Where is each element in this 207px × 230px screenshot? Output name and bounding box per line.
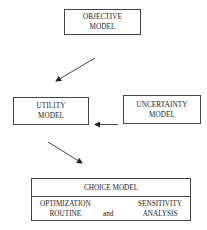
label-line: SENSITIVITY: [138, 200, 182, 208]
label-line: ANALYSIS: [143, 210, 178, 218]
uncertainty-model-node: UNCERTAINTY MODEL: [123, 95, 201, 124]
choice-model-title: CHOICE MODEL: [32, 179, 190, 197]
choice-model-node: CHOICE MODEL OPTIMIZATION ROUTINE and SE…: [31, 178, 191, 221]
node-label: UTILITY: [36, 101, 65, 111]
node-label: MODEL: [149, 110, 175, 120]
node-label: MODEL: [89, 22, 115, 32]
label-line: ROUTINE: [50, 210, 82, 218]
node-label: OBJECTIVE: [83, 12, 122, 22]
arrow-utility-to-choice: [48, 142, 82, 163]
label-line: OPTIMIZATION: [40, 200, 91, 208]
sensitivity-analysis-label: SENSITIVITY ANALYSIS: [138, 200, 182, 219]
arrow-objective-to-utility: [56, 58, 95, 81]
objective-model-node: OBJECTIVE MODEL: [64, 9, 141, 35]
connector-label: and: [103, 210, 113, 218]
optimization-routine-label: OPTIMIZATION ROUTINE: [40, 200, 91, 219]
node-label: MODEL: [38, 111, 64, 121]
node-label: UNCERTAINTY: [136, 100, 187, 110]
utility-model-node: UTILITY MODEL: [13, 97, 89, 125]
choice-model-components: OPTIMIZATION ROUTINE and SENSITIVITY ANA…: [32, 197, 190, 222]
